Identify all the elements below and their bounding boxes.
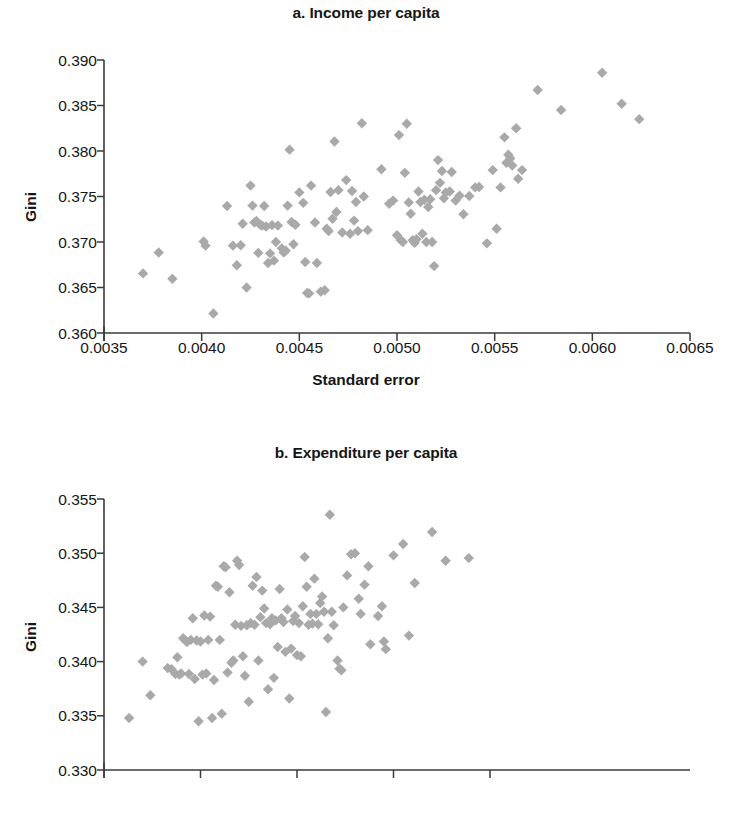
data-point-marker <box>188 613 198 623</box>
y-tick-label: 0.365 <box>58 279 97 296</box>
data-point-marker <box>298 601 308 611</box>
y-tick-label: 0.350 <box>58 545 97 562</box>
data-point-marker <box>447 167 457 177</box>
data-point-marker <box>398 539 408 549</box>
data-point-marker <box>328 620 338 630</box>
data-point-marker <box>193 716 203 726</box>
data-point-marker <box>321 707 331 717</box>
x-tick-label: 0.0037 <box>177 776 224 780</box>
data-point-marker <box>247 200 257 210</box>
data-point-marker <box>482 238 492 248</box>
data-point-marker <box>357 118 367 128</box>
data-point-marker <box>376 164 386 174</box>
data-point-marker <box>513 174 523 184</box>
data-point-marker <box>263 684 273 694</box>
data-point-marker <box>273 220 283 230</box>
data-point-marker <box>145 690 155 700</box>
data-point-marker <box>437 166 447 176</box>
data-point-marker <box>300 257 310 267</box>
y-tick-label: 0.345 <box>58 599 97 616</box>
data-point-marker <box>240 670 250 680</box>
data-point-marker <box>349 215 359 225</box>
data-point-marker <box>381 644 391 654</box>
data-point-group <box>138 68 645 319</box>
chart-panel-expenditure-per-capita: b. Expenditure per capita Gini 0.3300.33… <box>0 430 732 834</box>
x-tick-label: 0.0050 <box>373 339 421 356</box>
data-point-marker <box>288 239 298 249</box>
panel-a-plot: 0.3600.3650.3700.3750.3800.3850.3900.003… <box>0 0 732 360</box>
y-tick-label: 0.340 <box>58 653 97 670</box>
x-tick-label: 0.0052 <box>466 776 513 780</box>
data-point-marker <box>333 185 343 195</box>
data-point-marker <box>236 240 246 250</box>
data-point-marker <box>310 217 320 227</box>
y-tick-label: 0.385 <box>58 97 97 114</box>
data-point-marker <box>597 68 607 78</box>
data-point-marker <box>224 587 234 597</box>
data-point-marker <box>237 219 247 229</box>
data-point-marker <box>253 655 263 665</box>
data-point-marker <box>365 639 375 649</box>
data-point-marker <box>312 258 322 268</box>
x-tick-label: 0.0040 <box>178 339 226 356</box>
x-tick-label: 0.0060 <box>569 339 617 356</box>
data-point-marker <box>427 237 437 247</box>
data-point-marker <box>217 708 227 718</box>
data-point-marker <box>208 308 218 318</box>
data-point-marker <box>532 85 542 95</box>
data-point-marker <box>306 180 316 190</box>
y-tick-label: 0.370 <box>58 234 97 251</box>
data-point-marker <box>351 197 361 207</box>
data-point-marker <box>394 130 404 140</box>
data-point-marker <box>273 642 283 652</box>
data-point-marker <box>341 175 351 185</box>
data-point-marker <box>329 136 339 146</box>
data-point-marker <box>311 609 321 619</box>
data-point-marker <box>347 186 357 196</box>
data-point-marker <box>323 633 333 643</box>
data-point-marker <box>325 510 335 520</box>
data-point-marker <box>363 225 373 235</box>
data-point-marker <box>495 182 505 192</box>
data-point-marker <box>309 573 319 583</box>
data-point-marker <box>464 191 474 201</box>
data-point-marker <box>337 227 347 237</box>
data-point-marker <box>433 155 443 165</box>
data-point-marker <box>556 105 566 115</box>
data-point-marker <box>388 550 398 560</box>
y-tick-label: 0.390 <box>58 52 97 69</box>
data-point-marker <box>404 630 414 640</box>
data-point-marker <box>342 570 352 580</box>
data-point-marker <box>429 261 439 271</box>
data-point-marker <box>488 165 498 175</box>
y-tick-label: 0.375 <box>58 188 97 205</box>
y-tick-label: 0.380 <box>58 143 97 160</box>
x-tick-label: 0.0045 <box>276 339 323 356</box>
data-point-marker <box>257 585 267 595</box>
data-point-marker <box>222 667 232 677</box>
data-point-marker <box>203 635 213 645</box>
data-point-marker <box>359 579 369 589</box>
data-point-marker <box>294 187 304 197</box>
x-tick-label: 0.0042 <box>273 776 320 780</box>
data-point-marker <box>282 200 292 210</box>
data-point-marker <box>259 603 269 613</box>
data-point-marker <box>124 713 134 723</box>
data-point-marker <box>298 198 308 208</box>
data-point-marker <box>405 209 415 219</box>
data-point-marker <box>427 527 437 537</box>
data-point-marker <box>355 609 365 619</box>
data-point-marker <box>172 652 182 662</box>
data-point-marker <box>241 282 251 292</box>
data-point-marker <box>354 594 364 604</box>
data-point-marker <box>167 274 177 284</box>
data-point-marker <box>410 578 420 588</box>
data-point-marker <box>300 552 310 562</box>
data-point-marker <box>244 697 254 707</box>
data-point-marker <box>253 248 263 258</box>
data-point-marker <box>373 611 383 621</box>
data-point-marker <box>499 132 509 142</box>
data-point-marker <box>517 165 527 175</box>
data-point-marker <box>259 201 269 211</box>
data-point-marker <box>440 556 450 566</box>
